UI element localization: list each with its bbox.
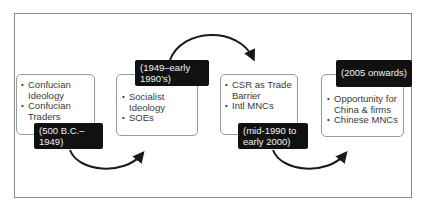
stage-1-period-label: (500 B.C.– 1949): [34, 123, 103, 149]
stage-4-item: Opportunity for China & firms: [327, 94, 400, 115]
stage-1-item: Confucian Ideology: [21, 80, 90, 101]
stage-2-item: SOEs: [122, 113, 193, 124]
stage-2-period-label: (1949–early 1990’s): [135, 60, 209, 86]
stage-3-item: Intl MNCs: [225, 101, 293, 112]
stage-4-period-label: (2005 onwards): [336, 60, 412, 87]
stage-2-list: Socialist Ideology SOEs: [122, 92, 193, 124]
stage-3-list: CSR as Trade Barrier Intl MNCs: [225, 80, 293, 112]
stage-1-item: Confucian Traders: [21, 101, 90, 122]
stage-1-list: Confucian Ideology Confucian Traders: [21, 80, 90, 122]
stage-2-item: Socialist Ideology: [122, 92, 193, 113]
stage-3-item: CSR as Trade Barrier: [225, 80, 293, 101]
stage-4-item: Chinese MNCs: [327, 115, 400, 126]
stage-3-period-label: (mid-1990 to early 2000): [238, 123, 308, 149]
stage-4-list: Opportunity for China & firms Chinese MN…: [327, 94, 400, 126]
